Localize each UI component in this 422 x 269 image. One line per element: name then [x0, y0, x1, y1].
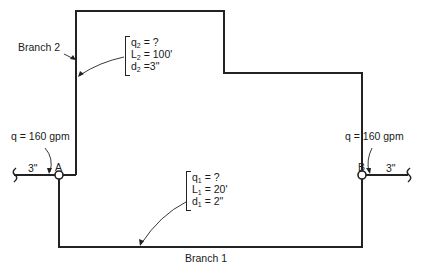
branch-2-label: Branch 2	[18, 42, 60, 53]
outlet-pipe-size: 3"	[386, 163, 396, 174]
bracket	[186, 171, 191, 211]
branch-1-label: Branch 1	[185, 253, 227, 264]
branch-1-data-block: q1 = ? L1 = 20' d1 = 2"	[186, 171, 227, 211]
arrowhead-icon	[47, 168, 52, 174]
branch-2-length: L2 = 100'	[131, 48, 172, 60]
bracket	[125, 36, 130, 76]
branch-2-data-leader	[80, 57, 124, 75]
node-a-label: A	[55, 162, 62, 173]
inlet-pipe-size: 3"	[28, 163, 38, 174]
node-b-label: B	[358, 162, 365, 173]
branch-2-data-block: q2 = ? L2 = 100' d2 =3"	[125, 36, 172, 76]
arrowhead-icon	[78, 71, 84, 77]
branch-1-diameter: d1 = 2"	[192, 195, 227, 207]
branch-1-data-leader	[141, 202, 186, 244]
arrowhead-icon	[366, 168, 371, 174]
inflow-label: q = 160 gpm	[11, 131, 70, 142]
branch-1-flow: q1 = ?	[192, 171, 227, 183]
branch-1-length: L1 = 20'	[192, 183, 227, 195]
branch-2-pipe	[76, 11, 362, 175]
outflow-label: q = 160 gpm	[345, 131, 404, 142]
branch-2-diameter: d2 =3"	[131, 60, 172, 72]
branch-2-flow: q2 = ?	[131, 36, 172, 48]
